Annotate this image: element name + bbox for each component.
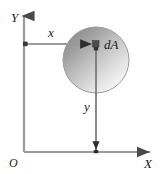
da-element-label: dA [104, 37, 119, 52]
x-dimension-label: x [47, 25, 54, 40]
y-dimension-end-tick [94, 150, 98, 153]
da-square-icon [93, 41, 99, 47]
x-axis-label: X [143, 156, 153, 171]
origin-label: O [9, 156, 18, 170]
x-dimension-start-tick [23, 42, 28, 47]
y-dimension-label: y [82, 99, 90, 114]
figure-container: Y X O x y dA [0, 0, 162, 174]
y-axis-label: Y [11, 10, 20, 25]
da-element-marker [93, 41, 99, 47]
